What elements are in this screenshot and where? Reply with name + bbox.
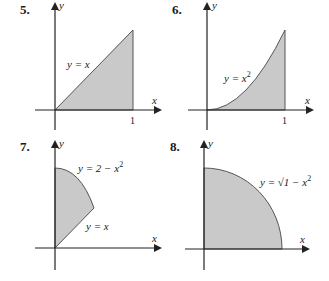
- y-axis-label: y: [211, 0, 217, 11]
- figure-number: 5.: [20, 2, 30, 17]
- x-axis-label: x: [151, 232, 157, 244]
- figure-6: 6. y x 1 y = x2: [172, 0, 312, 130]
- figure-5: 5. y x 1 y = x: [20, 0, 160, 130]
- y-axis-label: y: [58, 0, 64, 11]
- shaded-region: [55, 30, 133, 110]
- curve-label-top: y = 2 − x2: [77, 160, 123, 174]
- x-axis-label: x: [299, 233, 305, 245]
- curve-label: y = √1 − x2: [259, 174, 311, 188]
- figure-grid: 5. y x 1 y = x 6. y x 1 y = x2 7. y x y …: [0, 0, 329, 281]
- tick-label: 1: [282, 115, 287, 126]
- shaded-region: [55, 168, 94, 248]
- figure-number: 8.: [170, 139, 180, 154]
- x-axis-label: x: [151, 94, 157, 106]
- tick-label: 1: [130, 115, 135, 126]
- figure-7: 7. y x y = 2 − x2 y = x: [20, 137, 160, 270]
- curve-label: y = x: [66, 58, 90, 70]
- y-axis-label: y: [207, 137, 213, 149]
- x-axis-label: x: [304, 94, 310, 106]
- figure-number: 6.: [172, 2, 182, 17]
- curve-label: y = x2: [223, 70, 251, 84]
- y-axis-label: y: [58, 137, 64, 149]
- curve-label-bottom: y = x: [85, 220, 109, 232]
- figure-number: 7.: [20, 139, 30, 154]
- figure-8: 8. y x y = √1 − x2: [170, 137, 311, 270]
